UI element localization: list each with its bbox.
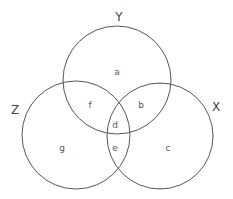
region-label-f: f — [88, 100, 92, 110]
region-label-b: b — [138, 100, 144, 110]
venn-diagram: Y Z X a b c d e f g — [0, 0, 233, 199]
region-label-a: a — [114, 67, 120, 77]
region-label-c: c — [166, 143, 171, 153]
set-label-x: X — [212, 100, 220, 114]
set-label-z: Z — [11, 103, 19, 117]
circle-y — [63, 26, 171, 134]
circles — [22, 26, 213, 189]
set-label-y: Y — [114, 10, 123, 24]
region-labels: a b c d e f g — [59, 67, 170, 153]
circle-z — [22, 81, 130, 189]
region-label-g: g — [59, 143, 65, 153]
region-label-e: e — [112, 143, 118, 153]
circle-x — [107, 83, 213, 189]
region-label-d: d — [112, 120, 118, 130]
